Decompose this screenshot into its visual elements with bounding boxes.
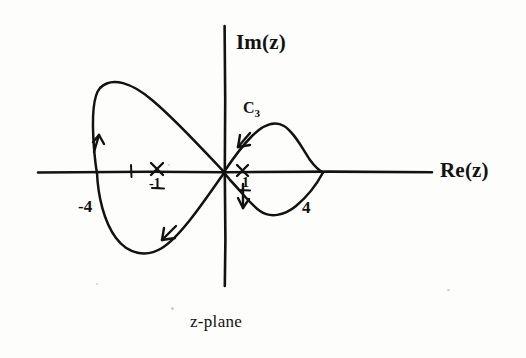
left-loop-upper-branch: [93, 82, 224, 173]
pole-marker-negative-one-icon: [151, 163, 163, 175]
tick-label-negative-one: -1: [149, 177, 161, 191]
axis-tick: [131, 165, 132, 177]
scan-speckle: [171, 307, 174, 310]
contour-label-letter: C: [243, 99, 255, 116]
tick-label-negative-four: -4: [78, 198, 92, 215]
scan-speckle: [447, 289, 450, 291]
tick-label-positive-one: 1: [242, 176, 249, 190]
contour-label-subscript: 3: [255, 107, 261, 119]
figure-caption: z-plane: [190, 313, 242, 330]
real-axis-label: Re(z): [440, 160, 489, 181]
imaginary-axis: [225, 26, 226, 286]
figure-canvas: Im(z) Re(z) C3 -4 4 -1 1 z-plane: [0, 0, 526, 358]
scan-speckle: [96, 283, 98, 285]
arrow-down-left-loop-icon: [162, 226, 176, 240]
tick-label-positive-four: 4: [302, 199, 311, 216]
pole-label-leaders: [152, 188, 250, 191]
imaginary-axis-label: Im(z): [236, 32, 286, 53]
scan-speckle: [168, 164, 170, 166]
contour-label: C3: [243, 100, 260, 119]
pole-markers: [151, 163, 248, 176]
